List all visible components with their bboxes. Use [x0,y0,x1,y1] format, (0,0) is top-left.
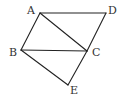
segment-be [21,50,68,85]
label-b: B [9,46,17,59]
segment-ab [21,13,40,50]
label-a: A [26,4,36,17]
label-c: C [92,46,100,59]
segment-ce [68,51,87,85]
label-e: E [70,84,78,96]
label-d: D [108,4,117,17]
segment-ac [40,13,87,51]
geometry-diagram: A D B C E [0,0,125,96]
segment-bc [21,50,87,51]
